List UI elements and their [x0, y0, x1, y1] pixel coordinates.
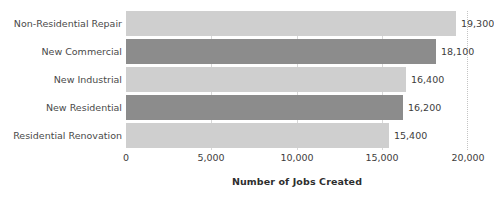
bar-new-industrial[interactable] — [126, 67, 406, 92]
category-label-new-commercial: New Commercial — [4, 39, 122, 64]
bar-new-residential[interactable] — [126, 95, 403, 120]
xtick-label-20000: 20,000 — [451, 152, 484, 163]
bar-non-residential-repair[interactable] — [126, 11, 456, 36]
bar-row: 15,400 — [126, 123, 468, 151]
category-label-new-residential: New Residential — [4, 95, 122, 120]
xtick-label-15000: 15,000 — [365, 152, 398, 163]
bar-row: 18,100 — [126, 39, 468, 67]
xtick-label-0: 0 — [123, 152, 129, 163]
bar-row: 16,400 — [126, 67, 468, 95]
x-axis-title: Number of Jobs Created — [126, 176, 468, 187]
bar-value-residential-renovation: 15,400 — [394, 123, 427, 148]
xtick-label-5000: 5,000 — [197, 152, 224, 163]
category-label-non-residential-repair: Non-Residential Repair — [4, 11, 122, 36]
bar-residential-renovation[interactable] — [126, 123, 389, 148]
bar-row: 19,300 — [126, 11, 468, 39]
bar-value-non-residential-repair: 19,300 — [461, 11, 494, 36]
plot-area: 19,300 18,100 16,400 16,200 15,400 — [126, 11, 468, 150]
xtick-label-10000: 10,000 — [280, 152, 313, 163]
bar-row: 16,200 — [126, 95, 468, 123]
bar-value-new-residential: 16,200 — [408, 95, 441, 120]
bar-chart: Non-Residential Repair New Commercial Ne… — [0, 0, 494, 197]
category-label-new-industrial: New Industrial — [4, 67, 122, 92]
bar-new-commercial[interactable] — [126, 39, 436, 64]
bar-value-new-commercial: 18,100 — [441, 39, 474, 64]
bar-value-new-industrial: 16,400 — [411, 67, 444, 92]
category-label-residential-renovation: Residential Renovation — [4, 123, 122, 148]
